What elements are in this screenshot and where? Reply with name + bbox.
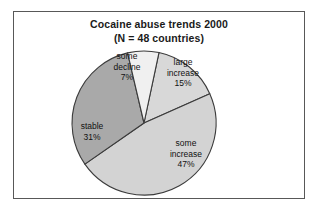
pie-svg: [13, 11, 305, 199]
figure-canvas: Cocaine abuse trends 2000 (N = 48 countr…: [0, 0, 319, 212]
pie-chart-area: large increase 15% some increase 47% sta…: [13, 11, 305, 199]
pie-slices: [72, 51, 216, 195]
